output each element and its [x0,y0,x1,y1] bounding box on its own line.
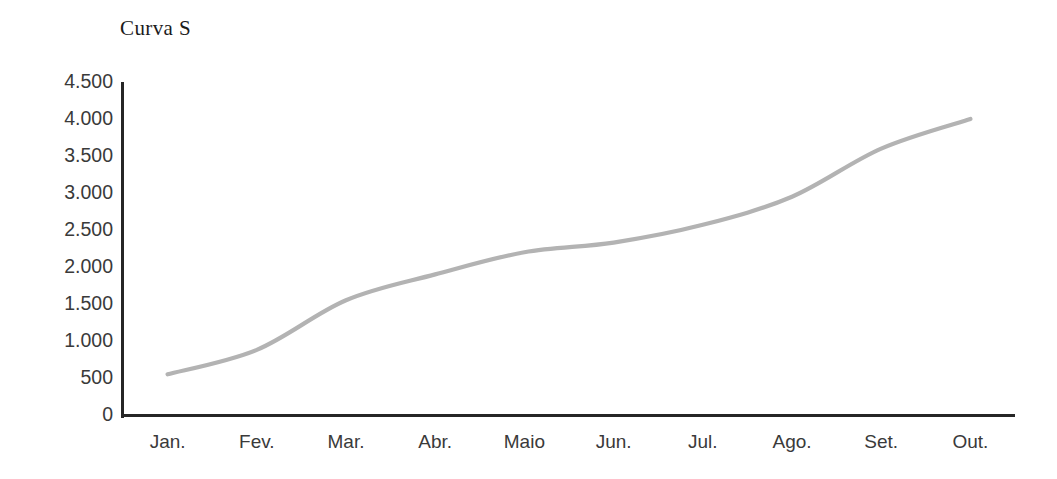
x-axis-line [121,414,1015,417]
y-axis-tick-4000: 4.000 [0,109,113,129]
x-axis-tick-jan: Jan. [150,432,186,451]
y-axis-tick-labels: 4.5004.0003.5003.0002.5002.0001.5001.000… [0,0,113,479]
y-axis-tick-3500: 3.500 [0,146,113,166]
chart-container: Curva S 4.5004.0003.5003.0002.5002.0001.… [0,0,1057,479]
chart-title: Curva S [120,16,191,41]
x-axis-tick-fev: Fev. [239,432,275,451]
series-line-curva-s [168,119,971,374]
y-axis-tick-3000: 3.000 [0,183,113,203]
y-axis-tick-1500: 1.500 [0,294,113,314]
x-axis-tick-ago: Ago. [772,432,811,451]
y-axis-tick-2000: 2.000 [0,257,113,277]
x-axis-tick-out: Out. [952,432,988,451]
y-axis-tick-4500: 4.500 [0,72,113,92]
x-axis-tick-maio: Maio [504,432,545,451]
series-plot-layer [0,0,1057,479]
x-axis-tick-jul: Jul. [688,432,718,451]
y-axis-tick-1000: 1.000 [0,331,113,351]
x-axis-tick-mar: Mar. [328,432,365,451]
y-axis-tick-500: 500 [0,368,113,388]
y-axis-tick-2500: 2.500 [0,220,113,240]
x-axis-tick-labels: Jan.Fev.Mar.Abr.MaioJun.Jul.Ago.Set.Out. [123,432,1015,462]
x-axis-tick-set: Set. [864,432,898,451]
x-axis-tick-jun: Jun. [596,432,632,451]
y-axis-line [121,82,124,418]
y-axis-tick-0: 0 [0,405,113,425]
x-axis-tick-abr: Abr. [418,432,452,451]
